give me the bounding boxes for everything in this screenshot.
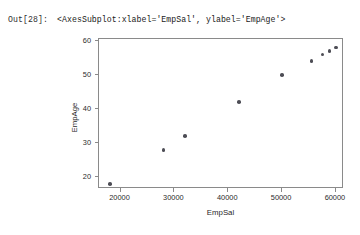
x-tick-mark: [335, 188, 336, 192]
scatter-point: [334, 46, 338, 50]
x-tick-mark: [227, 188, 228, 192]
y-tick-label: 50: [55, 69, 91, 78]
scatter-point: [328, 49, 332, 53]
x-tick-mark: [120, 188, 121, 192]
scatter-point: [183, 134, 187, 138]
x-tick-label: 30000: [150, 193, 196, 202]
x-tick-label: 60000: [312, 193, 358, 202]
y-tick-label: 30: [55, 137, 91, 146]
scatter-point: [108, 182, 112, 186]
notebook-output-row: Out[28]: <AxesSubplot:xlabel='EmpSal', y…: [0, 10, 360, 28]
scatter-point: [162, 148, 166, 152]
output-prompt-label: Out[28]:: [8, 15, 48, 24]
scatter-point: [321, 53, 325, 57]
axes-repr-text: <AxesSubplot:xlabel='EmpSal', ylabel='Em…: [57, 15, 285, 24]
y-tick-label: 20: [55, 172, 91, 181]
scatter-point: [237, 100, 241, 104]
x-tick-mark: [173, 188, 174, 192]
x-tick-label: 50000: [258, 193, 304, 202]
y-tick-label: 40: [55, 103, 91, 112]
x-tick-label: 40000: [204, 193, 250, 202]
plot-area: [98, 38, 343, 188]
matplotlib-figure: EmpAge 2030405060 2000030000400005000060…: [0, 28, 360, 235]
x-tick-label: 20000: [97, 193, 143, 202]
x-axis-label: EmpSal: [98, 208, 343, 217]
x-tick-mark: [281, 188, 282, 192]
scatter-point: [310, 59, 314, 63]
scatter-points: [99, 39, 342, 187]
scatter-point: [280, 73, 284, 77]
y-tick-label: 60: [55, 35, 91, 44]
